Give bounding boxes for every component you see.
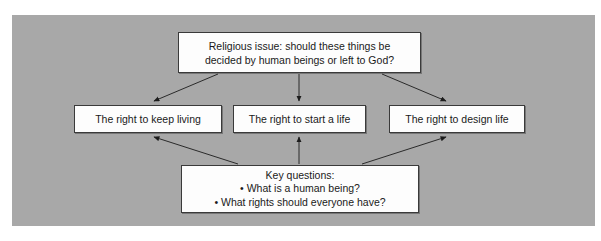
arrow-bottom-to-left (154, 137, 238, 164)
node-right-to-design-life-label: The right to design life (390, 112, 524, 126)
node-key-questions-label: Key questions: • What is a human being? … (182, 169, 418, 210)
arrow-top-to-right (382, 74, 446, 101)
node-right-to-keep-living-label: The right to keep living (75, 112, 221, 126)
diagram-canvas: Religious issue: should these things be … (0, 0, 601, 241)
node-right-to-start-a-life[interactable]: The right to start a life (233, 105, 366, 133)
node-right-to-start-a-life-label: The right to start a life (234, 112, 365, 126)
arrow-top-to-left (154, 74, 218, 101)
arrow-bottom-to-right (362, 137, 446, 164)
node-key-questions[interactable]: Key questions: • What is a human being? … (181, 165, 419, 213)
node-religious-issue-label: Religious issue: should these things be … (179, 39, 420, 67)
diagram-panel: Religious issue: should these things be … (12, 15, 595, 226)
node-religious-issue[interactable]: Religious issue: should these things be … (178, 32, 421, 73)
node-right-to-keep-living[interactable]: The right to keep living (74, 105, 222, 133)
node-right-to-design-life[interactable]: The right to design life (389, 105, 525, 133)
